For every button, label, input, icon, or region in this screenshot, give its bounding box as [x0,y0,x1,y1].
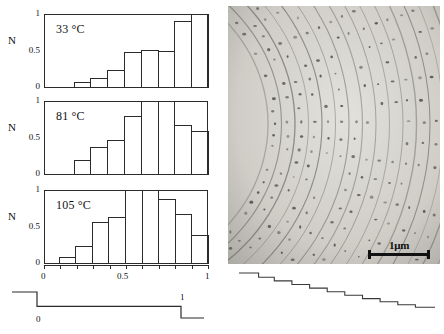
micrograph-particle [392,39,396,41]
histogram-bar [90,78,108,88]
micrograph-particle [361,176,363,179]
histogram-bar [191,14,209,88]
staircase-trace-plot [234,268,440,320]
micrograph-particle [340,105,343,107]
micrograph-particle [430,27,434,29]
micrograph-particle [286,221,289,223]
micrograph-particle [319,75,321,78]
x-tick-label-05: 0.5 [117,271,128,281]
histogram-bar [141,101,159,175]
staircase-trace-svg [234,268,440,320]
micrograph-particle [374,219,378,221]
micrograph-particle [287,135,290,138]
micrograph-particle [293,36,297,39]
micrograph-particle [272,97,276,100]
micrograph-particle [414,232,416,234]
y-tick-0-p1: 0 [18,168,40,178]
micrograph-particle [276,12,279,14]
x-axis-tick [192,265,193,269]
micrograph-particle [295,161,299,164]
micrograph-particle [364,84,366,87]
micrograph-particle [267,48,270,51]
micrograph-particle [391,161,394,163]
x-tick-label-1: 1 [205,271,210,281]
micrograph-particle [433,214,436,217]
micrograph-particle [435,120,438,122]
histogram-bar [44,87,60,88]
micrograph-particle [339,155,341,157]
scale-bar-line [368,253,430,256]
micrograph-particle [321,237,324,239]
micrograph-particle [425,53,428,55]
micrograph-particle [405,163,407,166]
micrograph-particle [310,150,312,153]
micrograph-particle [285,96,289,99]
micrograph-particle [377,159,381,161]
micrograph-particle [244,212,247,215]
micrograph-particle [414,56,417,59]
micrograph-particle [366,121,369,124]
micrograph-particle [298,148,301,151]
y-tick-1-p0: 1 [18,8,40,18]
micrograph-particle [338,88,340,90]
histogram-bar [74,82,92,88]
micrograph-particle [387,222,390,224]
histogram-column: 33 °C N 1 0.5 0 81 °C N 1 0.5 0 105 °C N… [0,0,222,334]
micrograph-particle [327,137,329,140]
micrograph-particle [423,121,426,124]
micrograph-particle [293,176,295,178]
histogram-bar [107,140,125,175]
micrograph-particle [427,236,429,239]
histogram-bar [125,190,143,264]
micrograph-particle [407,120,411,122]
pulse-trace-plot: 0 1 [8,288,214,330]
histogram-panel-105c: 105 °C [44,190,208,264]
micrograph-particle [419,99,423,102]
histogram-bar [124,52,142,88]
micrograph-particle [348,32,350,35]
histogram-panel-81c: 81 °C [44,101,208,175]
histogram-bar [175,214,193,264]
micrograph-particle [300,135,303,138]
scale-bar-label: 1μm [368,240,430,251]
micrograph-texture [228,6,440,264]
micrograph-particle [249,201,253,204]
micrograph-particle [281,252,283,254]
micrograph-particle [311,93,313,95]
micrograph-particle [291,258,295,261]
x-axis-tick [44,265,45,269]
micrograph-particle [411,9,414,11]
micrograph-particle [306,211,308,214]
micrograph-particle [238,240,241,242]
micrograph-particle [286,148,288,150]
micrograph-particle [313,254,315,256]
micrograph-particle [297,107,300,109]
micrograph-particle [339,208,342,210]
micrograph-particle [274,184,278,187]
micrograph-particle [256,7,259,10]
micrograph-particle [229,230,231,233]
micrograph-particle [242,33,246,36]
micrograph-particle [327,120,329,123]
micrograph-particle [287,55,289,58]
micrograph-particle [266,169,269,171]
histogram-bar [108,217,126,264]
micrograph-particle [292,207,296,210]
histogram-bar [59,87,75,88]
micrograph-particle [422,142,425,144]
micrograph-particle [344,189,347,191]
micrograph-particle [430,76,434,78]
histogram-bar [44,174,60,175]
micrograph-particle [418,31,421,33]
micrograph-particle [395,203,399,206]
micrograph-particle [354,138,356,141]
figure-root: 33 °C N 1 0.5 0 81 °C N 1 0.5 0 105 °C N… [0,0,444,334]
micrograph-particle [313,136,315,139]
micrograph-particle [268,225,271,228]
staircase-trace-line [239,273,435,307]
micrograph-particle [370,196,374,199]
panel-title-81c: 81 °C [56,109,85,124]
histogram-bar [191,131,209,175]
y-tick-0-p2: 0 [18,257,40,267]
micrograph-particle [388,182,391,184]
